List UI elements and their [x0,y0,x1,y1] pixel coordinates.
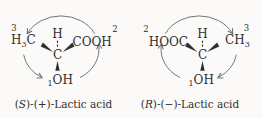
lactic-acid-enantiomers-figure: 3 H3C H C COOH 2 1OH (S)-(+)-Lactic acid… [0,0,262,118]
caption-stereo-letter: S [19,98,26,110]
molecule-r-lactic-acid: 2 HOOC H C CH3 3 1OH (R)-(−)-Lactic acid [141,16,250,110]
stereochemistry-diagram: 3 H3C H C COOH 2 1OH (S)-(+)-Lactic acid… [0,0,262,118]
stereocenter-carbon: C [198,48,207,62]
methyl-h: H [11,33,21,47]
wedge-bond-methyl [207,43,219,52]
hydroxyl-group: 1OH [189,73,214,88]
methyl-c: C [27,33,36,47]
carboxyl-group: HOOC [149,35,188,49]
stereocenter-carbon: C [53,48,62,62]
hydrogen-atom: H [52,27,62,41]
methyl-ch: CH [225,33,245,47]
priority-2-label: 2 [143,24,148,34]
rotation-arc-right [80,44,99,77]
priority-2-label: 2 [112,24,117,34]
caption-r-lactic-acid: (R)-(−)-Lactic acid [141,98,240,110]
carboxyl-group: COOH [73,35,112,49]
priority-3-label: 3 [244,23,249,33]
hydrogen-atom: H [197,27,207,41]
priority-3-label: 3 [11,23,16,33]
wedge-bond-hydroxyl [55,61,59,71]
caption-s-lactic-acid: (S)-(+)-Lactic acid [15,98,113,110]
hydroxyl-oh: OH [194,73,214,87]
molecule-s-lactic-acid: 3 H3C H C COOH 2 1OH (S)-(+)-Lactic acid [11,16,118,110]
caption-rest: )-(+)-Lactic acid [26,98,113,110]
methyl-sub: 3 [245,40,250,49]
hydroxyl-oh: OH [53,73,73,87]
wedge-bond-methyl [41,43,53,52]
caption-stereo-letter: R [144,98,153,110]
wedge-bond-hydroxyl [200,61,204,71]
caption-rest: )-(−)-Lactic acid [153,98,240,110]
rotation-arc-left [161,44,180,77]
methyl-group: CH3 [225,33,250,49]
hydroxyl-group: 1OH [48,73,73,88]
methyl-group: H3C [11,33,36,49]
rotation-arc-right [218,55,236,78]
rotation-arc-left [24,55,42,78]
